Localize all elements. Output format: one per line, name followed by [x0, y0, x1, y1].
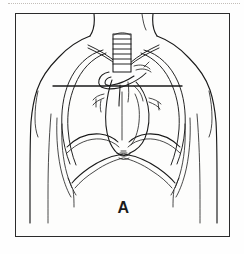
trachea-with-cartilage-rings	[113, 33, 131, 72]
panel-label: A	[16, 200, 231, 216]
heart-silhouette	[106, 80, 149, 155]
panel-frame: A	[15, 13, 230, 237]
hilar-vessels	[93, 94, 161, 112]
top-dotted-rule	[8, 3, 240, 5]
figure-root: A	[0, 0, 244, 254]
